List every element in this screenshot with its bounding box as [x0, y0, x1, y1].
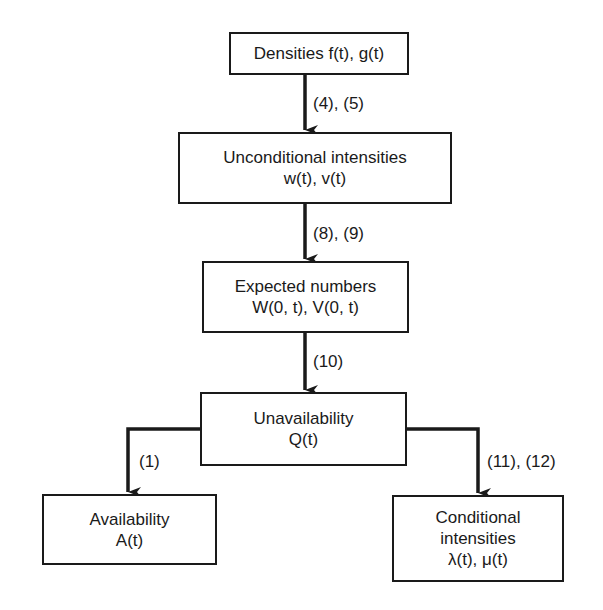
node-availability: Availability A(t): [42, 494, 217, 565]
node-unavailability: Unavailability Q(t): [200, 392, 407, 466]
node-densities: Densities f(t), g(t): [229, 32, 409, 75]
node-conditional-line3: λ(t), μ(t): [448, 549, 508, 570]
edge-label-8-9: (8), (9): [313, 224, 364, 244]
node-unconditional-intensities: Unconditional intensities w(t), v(t): [178, 132, 452, 204]
node-expected-line2: W(0, t), V(0, t): [252, 297, 359, 318]
edge-label-10: (10): [313, 352, 343, 372]
node-unconditional-line2: w(t), v(t): [284, 168, 346, 189]
edge-label-11-12: (11), (12): [487, 452, 556, 472]
node-availability-line1: Availability: [89, 509, 169, 530]
node-unconditional-line1: Unconditional intensities: [223, 147, 406, 168]
node-conditional-line2: intensities: [440, 528, 516, 549]
node-unavailability-line1: Unavailability: [253, 408, 353, 429]
edge-label-4-5: (4), (5): [313, 94, 364, 114]
node-conditional-intensities: Conditional intensities λ(t), μ(t): [392, 495, 564, 582]
node-densities-line1: Densities f(t), g(t): [254, 43, 384, 64]
node-expected-line1: Expected numbers: [235, 276, 377, 297]
node-availability-line2: A(t): [116, 530, 143, 551]
node-conditional-line1: Conditional: [435, 507, 520, 528]
edge-label-1: (1): [139, 452, 160, 472]
node-expected-numbers: Expected numbers W(0, t), V(0, t): [202, 261, 409, 333]
node-unavailability-line2: Q(t): [289, 429, 318, 450]
